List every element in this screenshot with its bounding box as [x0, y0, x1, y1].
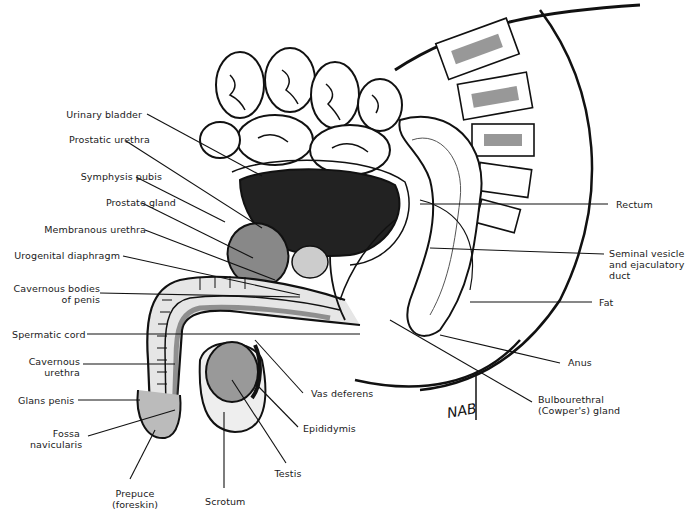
label-bulbourethral-gland: Bulbourethral (Cowper's) gland — [538, 394, 628, 416]
label-urinary-bladder: Urinary bladder — [32, 109, 142, 120]
label-prostate-gland: Prostate gland — [66, 197, 176, 208]
label-seminal-vesicle: Seminal vesicle and ejaculatory duct — [609, 248, 688, 281]
label-anus: Anus — [568, 357, 598, 368]
label-urogenital-diaphragm: Urogenital diaphragm — [10, 250, 120, 261]
label-fat: Fat — [599, 297, 629, 308]
label-prostatic-urethra: Prostatic urethra — [40, 134, 150, 145]
label-prepuce: Prepuce (foreskin) — [110, 488, 160, 510]
leader-line-bulbourethral-gland — [390, 320, 532, 402]
label-cavernous-urethra: Cavernous urethra — [28, 356, 80, 378]
label-spermatic-cord: Spermatic cord — [12, 329, 82, 340]
label-fossa-navicularis: Fossa navicularis — [30, 428, 80, 450]
label-symphysis-pubis: Symphysis pubis — [52, 171, 162, 182]
leader-line-prepuce — [130, 430, 155, 479]
anatomy-diagram: NAB Urinary bladderProstatic urethraSymp… — [0, 0, 688, 519]
label-glans-penis: Glans penis — [18, 395, 74, 406]
label-scrotum: Scrotum — [205, 496, 245, 507]
label-testis: Testis — [273, 468, 303, 479]
label-epididymis: Epididymis — [303, 423, 363, 434]
signature: NAB — [446, 400, 478, 421]
label-vas-deferens: Vas deferens — [311, 388, 381, 399]
label-membranous-urethra: Membranous urethra — [36, 224, 146, 235]
label-rectum: Rectum — [616, 199, 656, 210]
label-cavernous-bodies: Cavernous bodies of penis — [10, 283, 100, 305]
